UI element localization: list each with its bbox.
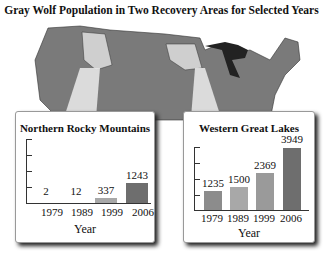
value-label: 12 [59, 185, 93, 197]
bar-2006 [126, 183, 148, 203]
value-label: 2 [29, 185, 63, 197]
x-tick: 1989 [65, 206, 99, 218]
panel-western-great-lakes: Western Great Lakes 1235 1500 2369 3949 … [183, 111, 315, 243]
bar-1989 [230, 187, 248, 210]
bar-1979 [204, 191, 222, 210]
x-tick: 2006 [274, 212, 308, 224]
value-label: 1500 [222, 173, 256, 185]
value-label: 337 [89, 184, 123, 196]
bar-1999 [95, 198, 117, 203]
panel-northern-rocky-mountains: Northern Rocky Mountains 2 12 337 1243 1… [15, 111, 155, 243]
chart-axis: 2 12 337 1243 [26, 139, 151, 204]
x-tick: 1979 [35, 206, 69, 218]
value-label: 2369 [248, 159, 282, 171]
chart-title: Northern Rocky Mountains [16, 122, 154, 134]
x-axis-label: Year [184, 226, 314, 241]
value-label: 3949 [275, 133, 309, 145]
value-label: 1243 [120, 169, 154, 181]
x-axis-label: Year [16, 222, 154, 237]
figure-title: Gray Wolf Population in Two Recovery Are… [0, 4, 323, 16]
x-tick: 1999 [95, 206, 129, 218]
x-tick: 2006 [126, 206, 160, 218]
bar-1999 [256, 173, 274, 210]
bar-2006 [283, 148, 301, 210]
chart-axis: 1235 1500 2369 3949 [194, 147, 309, 211]
